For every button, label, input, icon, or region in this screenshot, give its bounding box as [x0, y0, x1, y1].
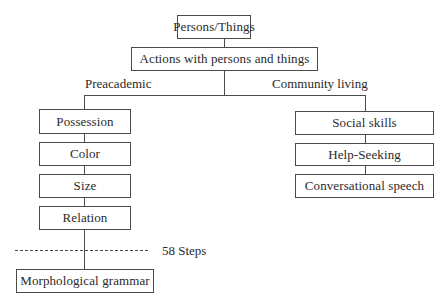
node-morphological-grammar: Morphological grammar — [16, 269, 154, 293]
connector-root-to-actions — [224, 39, 225, 47]
node-label: Color — [70, 146, 100, 162]
branch-label-preacademic: Preacademic — [85, 77, 151, 90]
node-label: Social skills — [332, 115, 397, 131]
node-label: Relation — [63, 210, 108, 226]
node-social-skills: Social skills — [295, 111, 434, 135]
node-label: Persons/Things — [173, 19, 255, 35]
connector-actions-to-branches — [224, 71, 225, 96]
node-color: Color — [39, 142, 131, 166]
node-label: Size — [74, 178, 97, 194]
node-relation: Relation — [39, 206, 131, 230]
steps-label: 58 Steps — [162, 244, 206, 257]
node-label: Conversational speech — [305, 178, 424, 194]
node-label: Help-Seeking — [328, 147, 401, 163]
branch-label-community-living: Community living — [272, 77, 368, 90]
node-label: Actions with persons and things — [140, 51, 310, 67]
branch-bar — [84, 95, 365, 96]
steps-divider — [15, 250, 148, 251]
node-size: Size — [39, 174, 131, 198]
node-actions: Actions with persons and things — [131, 47, 318, 71]
node-possession: Possession — [39, 109, 131, 134]
node-label: Morphological grammar — [20, 273, 150, 289]
node-conversational-speech: Conversational speech — [295, 174, 434, 198]
node-persons-things: Persons/Things — [177, 15, 251, 39]
node-help-seeking: Help-Seeking — [295, 143, 434, 166]
node-label: Possession — [56, 114, 113, 130]
